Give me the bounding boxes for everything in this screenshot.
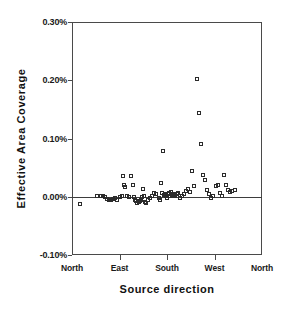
data-point xyxy=(199,142,203,146)
data-point xyxy=(197,111,201,115)
y-axis-tick xyxy=(68,139,72,140)
y-axis-tick xyxy=(68,80,72,81)
data-point xyxy=(159,181,163,185)
x-axis-tick xyxy=(215,255,216,260)
data-point xyxy=(224,183,228,187)
data-point xyxy=(182,192,186,196)
y-axis-tick xyxy=(68,197,72,198)
data-point xyxy=(192,184,196,188)
x-axis-tick-label: West xyxy=(205,263,225,273)
data-point xyxy=(129,174,133,178)
y-axis-tick-label: 0.30% xyxy=(42,17,67,27)
data-point xyxy=(123,185,127,189)
y-axis-tick-label: -0.10% xyxy=(40,250,67,260)
data-point xyxy=(158,198,162,202)
y-axis-tick xyxy=(68,22,72,23)
y-axis-tick-label: 0.10% xyxy=(42,134,67,144)
data-point xyxy=(233,188,237,192)
x-axis-tick-label: North xyxy=(61,263,83,273)
data-point xyxy=(195,77,199,81)
x-axis-tick xyxy=(167,255,168,260)
plot-area: 0.30%0.20%0.10%0.00%-0.10% NorthEastSout… xyxy=(72,22,262,255)
y-axis-tick-label: 0.20% xyxy=(42,75,67,85)
chart-figure: Effective Area Coverage 0.30%0.20%0.10%0… xyxy=(0,0,286,310)
data-point xyxy=(190,169,194,173)
x-axis-tick-label: East xyxy=(111,263,129,273)
x-axis-tick-label: North xyxy=(251,263,273,273)
data-point xyxy=(131,183,135,187)
x-axis-title: Source direction xyxy=(72,283,262,295)
data-point xyxy=(141,187,145,191)
data-point xyxy=(220,194,224,198)
data-point xyxy=(120,194,124,198)
data-point xyxy=(201,173,205,177)
data-point xyxy=(222,173,226,177)
x-axis-tick xyxy=(120,255,121,260)
y-axis-title: Effective Area Coverage xyxy=(12,22,30,255)
x-axis-tick-label: South xyxy=(155,263,179,273)
data-point xyxy=(203,178,207,182)
data-point xyxy=(216,183,220,187)
data-point xyxy=(121,174,125,178)
data-point xyxy=(127,195,131,199)
y-axis-tick-label: 0.00% xyxy=(42,192,67,202)
data-point xyxy=(188,190,192,194)
y-axis-tick xyxy=(68,255,72,256)
data-point xyxy=(78,202,82,206)
data-point xyxy=(161,149,165,153)
data-point xyxy=(211,194,215,198)
